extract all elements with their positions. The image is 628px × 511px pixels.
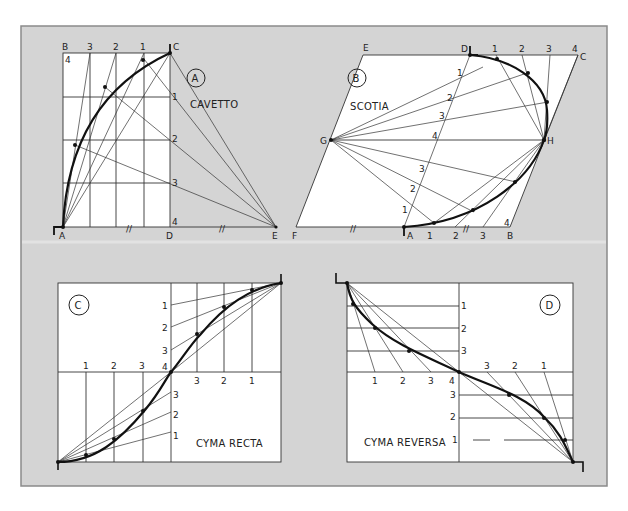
- upper-h-div-3: 3: [484, 361, 490, 371]
- right-div-2: 2: [172, 134, 178, 144]
- upper-h-div-3: 3: [194, 376, 200, 386]
- bottom-div-3: 3: [480, 231, 486, 241]
- top-div-3: 3: [87, 42, 93, 52]
- upper-h-div-1: 1: [541, 361, 547, 371]
- lower-v-div-2: 2: [450, 412, 456, 422]
- upper-h-div-2: 2: [512, 361, 518, 371]
- cyma-reversa-title: CYMA REVERSA: [364, 437, 446, 448]
- label-a: A: [59, 231, 66, 241]
- lower-v-div-1: 1: [452, 435, 458, 445]
- upper-h-div-2: 2: [221, 376, 227, 386]
- upper-v-div-1: 1: [162, 301, 168, 311]
- label-h: H: [547, 136, 554, 146]
- label-c: C: [580, 52, 586, 62]
- right-div-3: 3: [172, 178, 178, 188]
- badge-a: A: [192, 73, 199, 84]
- top-div-2: 2: [519, 44, 525, 54]
- diag-div-lower-1: 1: [402, 205, 408, 215]
- panel-c-cyma-recta: 1 2 3 4 3 2 1 1 2 3 3 2 1 C CYMA RECTA: [56, 274, 283, 470]
- top-div-3: 3: [546, 44, 552, 54]
- diag-div-3: 3: [439, 111, 445, 121]
- lower-h-div-2: 2: [400, 376, 406, 386]
- top-div-1: 1: [140, 42, 146, 52]
- label-b: B: [62, 42, 68, 52]
- label-e: E: [272, 231, 278, 241]
- label-e: E: [363, 43, 369, 53]
- diag-div-1: 1: [457, 68, 463, 78]
- diag-div-4: 4: [432, 131, 438, 141]
- upper-v-div-3: 3: [162, 346, 168, 356]
- label-d: D: [461, 44, 468, 54]
- bottom-div-2: 2: [453, 231, 459, 241]
- right-div-1: 1: [172, 92, 178, 102]
- diag-div-lower-2: 2: [410, 184, 416, 194]
- right-div-4: 4: [172, 217, 178, 227]
- lower-v-div-1: 1: [173, 431, 179, 441]
- lower-h-div-3: 3: [428, 376, 434, 386]
- panel-d-cyma-reversa: 1 2 3 1 2 3 4 3 2 1 3 2 1 D CYMA REVERSA: [336, 273, 583, 472]
- diag-div-2: 2: [447, 93, 453, 103]
- diag-div-lower-3: 3: [419, 164, 425, 174]
- upper-h-div-1: 1: [249, 376, 255, 386]
- left-div-4: 4: [65, 55, 71, 65]
- badge-b: B: [353, 73, 360, 84]
- label-d: D: [166, 231, 173, 241]
- center-4: 4: [449, 376, 455, 386]
- equal-mark-2: //: [463, 224, 470, 234]
- equal-mark-2: //: [219, 224, 226, 234]
- bottom-div-4: 4: [504, 218, 510, 228]
- badge-d: D: [546, 300, 554, 311]
- equal-mark-1: //: [350, 224, 357, 234]
- moulding-construction-diagram: B C A D E 3 2 1 4 1 2 3 4 // // A CAVETT…: [0, 0, 628, 511]
- upper-v-div-1: 1: [461, 301, 467, 311]
- lower-v-div-2: 2: [173, 410, 179, 420]
- top-div-1: 1: [492, 44, 498, 54]
- lower-h-div-1: 1: [83, 361, 89, 371]
- lower-h-div-2: 2: [111, 361, 117, 371]
- lower-v-div-3: 3: [450, 390, 456, 400]
- label-a: A: [407, 231, 414, 241]
- bottom-div-1: 1: [427, 231, 433, 241]
- lower-h-div-3: 3: [139, 361, 145, 371]
- cavetto-title: CAVETTO: [190, 99, 238, 110]
- label-f: F: [292, 231, 297, 241]
- label-b: B: [507, 231, 513, 241]
- lower-h-div-1: 1: [372, 376, 378, 386]
- upper-v-div-3: 3: [461, 346, 467, 356]
- upper-v-div-2: 2: [162, 323, 168, 333]
- lower-v-div-3: 3: [173, 390, 179, 400]
- upper-v-div-2: 2: [461, 324, 467, 334]
- equal-mark-1: //: [126, 224, 133, 234]
- center-4: 4: [162, 362, 168, 372]
- label-c: C: [173, 42, 179, 52]
- badge-c: C: [75, 300, 82, 311]
- cyma-recta-title: CYMA RECTA: [196, 438, 263, 449]
- scotia-title: SCOTIA: [350, 101, 389, 112]
- top-div-2: 2: [113, 42, 119, 52]
- label-g: G: [320, 136, 327, 146]
- top-div-4: 4: [572, 44, 578, 54]
